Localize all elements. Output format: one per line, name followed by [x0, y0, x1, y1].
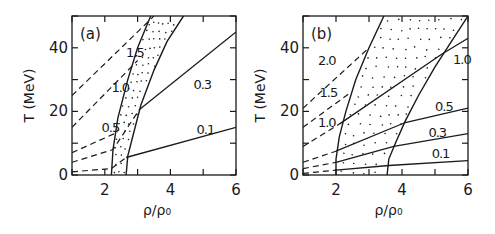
region-dot	[153, 57, 155, 59]
region-dot	[133, 123, 135, 125]
region-dot	[122, 138, 124, 140]
region-dot	[420, 38, 422, 40]
region-dot	[369, 114, 371, 116]
region-dot	[372, 153, 374, 155]
y-axis-label: T (MeV)	[252, 68, 268, 123]
region-dot	[380, 116, 382, 118]
region-dot	[350, 114, 352, 116]
region-dot	[407, 38, 409, 40]
isentrope-0-5-dashed	[303, 151, 336, 162]
region-dot	[419, 20, 421, 22]
region-dot	[438, 19, 440, 21]
region-dot	[120, 114, 122, 116]
curve-label-2-0: 2.0	[318, 53, 336, 68]
curve-label-0-3: 0.3	[428, 125, 446, 140]
y-tick-label: 20	[49, 102, 68, 120]
isentrope-0-1-dashed	[303, 170, 336, 173]
region-dot	[365, 68, 367, 70]
region-dot	[154, 47, 156, 49]
region-dot	[343, 152, 345, 154]
region-dot	[382, 86, 384, 88]
region-dot	[406, 113, 408, 115]
region-dot	[414, 46, 416, 48]
y-tick-label: 0	[289, 166, 299, 184]
region-dot	[403, 86, 405, 88]
curve-label-1-0: 1.0	[453, 52, 471, 67]
region-dot	[398, 39, 400, 41]
region-dot	[426, 28, 428, 30]
region-dot	[386, 142, 388, 144]
region-dot	[358, 113, 360, 115]
region-dot	[120, 163, 122, 165]
right-boundary-curve	[387, 16, 468, 175]
region-dot	[427, 67, 429, 69]
region-dot	[128, 106, 130, 108]
region-dot	[353, 135, 355, 137]
region-dot	[409, 28, 411, 30]
region-dot	[450, 18, 452, 20]
chart-figure: 0.10.30.51.01.524602040(a)ρ/ρ₀T (MeV)0.1…	[0, 0, 495, 234]
region-dot	[132, 73, 134, 75]
region-dot	[385, 56, 387, 58]
region-dot	[116, 138, 118, 140]
curve-label-1-0: 1.0	[111, 80, 129, 95]
region-dot	[159, 46, 161, 48]
region-dot	[429, 39, 431, 41]
region-dot	[386, 105, 388, 107]
region-dot	[121, 154, 123, 156]
x-tick-label: 6	[231, 181, 241, 199]
curve-label-1-0: 1.0	[318, 115, 336, 130]
region-dot	[383, 76, 385, 78]
region-dot	[158, 31, 160, 33]
region-dot	[397, 66, 399, 68]
region-dot	[380, 28, 382, 30]
panel-label: (b)	[311, 25, 332, 43]
x-tick-label: 6	[463, 181, 473, 199]
region-dot	[389, 38, 391, 40]
panel-label: (a)	[80, 25, 101, 43]
curve-label-1-5: 1.5	[320, 85, 338, 100]
region-dot	[340, 171, 342, 173]
region-dot	[152, 31, 154, 33]
region-dot	[363, 173, 365, 175]
region-dot	[345, 144, 347, 146]
region-dot	[363, 145, 365, 147]
curve-label-0-5: 0.5	[102, 120, 120, 135]
region-dot	[128, 139, 130, 141]
region-dot	[147, 72, 149, 74]
region-dot	[368, 94, 370, 96]
region-dot	[374, 172, 376, 174]
region-dot	[440, 37, 442, 39]
region-dot	[438, 48, 440, 50]
region-dot	[115, 154, 117, 156]
region-dot	[401, 30, 403, 32]
region-dot	[159, 38, 161, 40]
region-dot	[443, 28, 445, 30]
region-dot	[388, 114, 390, 116]
region-dot	[407, 106, 409, 108]
region-dot	[129, 131, 131, 133]
isentrope-0-1-solid	[336, 161, 468, 171]
region-dot	[125, 115, 127, 117]
x-tick-label: 4	[166, 181, 176, 199]
region-dot	[122, 105, 124, 107]
region-dot	[360, 86, 362, 88]
region-dot	[118, 171, 120, 173]
region-dot	[412, 76, 414, 78]
region-dot	[165, 32, 167, 34]
region-dot	[410, 95, 412, 97]
y-tick-label: 0	[58, 166, 68, 184]
region-dot	[354, 104, 356, 106]
region-dot	[395, 105, 397, 107]
x-tick-label: 2	[331, 181, 341, 199]
region-dot	[382, 47, 384, 49]
x-axis-label: ρ/ρ₀	[374, 202, 402, 218]
region-dot	[158, 22, 160, 24]
isentrope-0-1-solid	[126, 127, 236, 157]
region-dot	[405, 49, 407, 51]
region-dot	[375, 66, 377, 68]
x-tick-label: 2	[100, 181, 110, 199]
region-dot	[375, 164, 377, 166]
region-dot	[142, 39, 144, 41]
curve-label-0-3: 0.3	[193, 77, 211, 92]
